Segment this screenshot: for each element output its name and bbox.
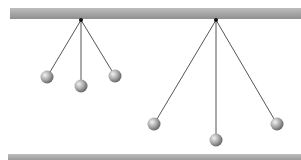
pendulum-diagram xyxy=(0,0,301,160)
pivot-point xyxy=(79,18,83,22)
pendulum-ball xyxy=(109,70,122,83)
pendulum-set-short xyxy=(41,18,122,93)
floor-bar xyxy=(8,154,301,160)
pendulum-ball xyxy=(41,71,54,84)
pendulum-set-long xyxy=(148,18,284,147)
pendulum-string xyxy=(81,20,115,76)
pivot-point xyxy=(214,18,218,22)
pendulum-ball xyxy=(210,134,223,147)
pendulum-ball xyxy=(271,118,284,131)
ceiling-bar xyxy=(10,8,301,19)
pendulum-string xyxy=(154,20,216,124)
pendulum-ball xyxy=(148,118,161,131)
pendulum-string xyxy=(47,20,81,77)
pendulum-string xyxy=(216,20,277,124)
pendulum-ball xyxy=(75,80,88,93)
